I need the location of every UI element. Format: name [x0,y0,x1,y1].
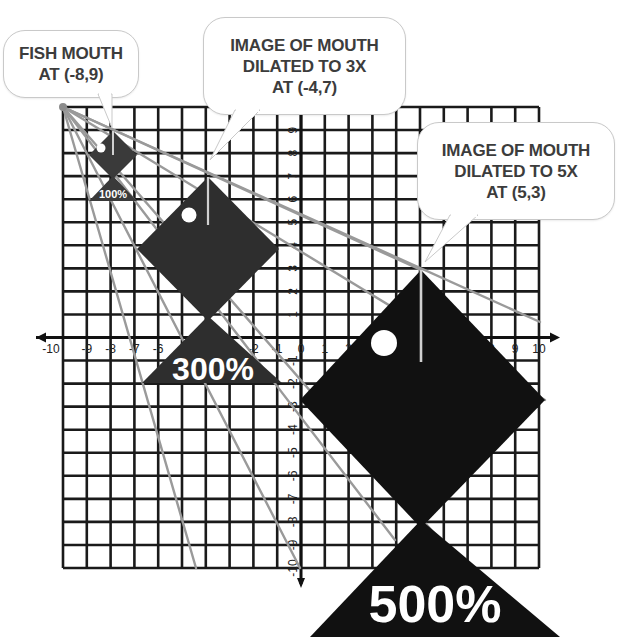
svg-text:0: 0 [298,342,305,356]
callout-mouth-3x: IMAGE OF MOUTH DILATED TO 3X AT (-4,7) [203,17,406,115]
svg-text:9: 9 [286,126,300,133]
svg-text:-6: -6 [286,470,300,481]
svg-text:1: 1 [286,311,300,318]
dilation-diagram: -10-9-8-7-6-5-4-3-2-10123456789101098765… [0,0,623,637]
callout-mouth-5x-text: IMAGE OF MOUTH DILATED TO 5X AT (5,3) [442,140,590,203]
svg-text:-10: -10 [42,342,60,356]
callout-fish-mouth-text: FISH MOUTH AT (-8,9) [19,43,123,85]
svg-text:7: 7 [286,172,300,179]
callout-line: AT (5,3) [442,182,590,203]
svg-text:8: 8 [286,149,300,156]
callout-line: IMAGE OF MOUTH [230,35,378,56]
fish-small: 100% [89,131,137,201]
svg-text:10: 10 [532,342,546,356]
svg-text:-4: -4 [286,424,300,435]
svg-text:5: 5 [286,219,300,226]
callout-line: DILATED TO 3X [230,56,378,77]
center-of-dilation-point [59,103,67,111]
fish-small-label: 100% [99,188,127,200]
svg-text:-7: -7 [286,493,300,504]
svg-text:-8: -8 [286,516,300,527]
fish-medium-label: 300% [172,351,254,387]
svg-text:-6: -6 [153,342,164,356]
callout-line: IMAGE OF MOUTH [442,140,590,161]
svg-text:6: 6 [286,196,300,203]
svg-text:9: 9 [512,342,519,356]
callout-mouth-3x-text: IMAGE OF MOUTH DILATED TO 3X AT (-4,7) [230,35,378,98]
svg-text:1: 1 [321,342,328,356]
svg-text:-2: -2 [286,378,300,389]
svg-text:2: 2 [286,288,300,295]
callout-line: FISH MOUTH [19,43,123,64]
callout-fish-mouth: FISH MOUTH AT (-8,9) [3,30,139,98]
callout-line: DILATED TO 5X [442,161,590,182]
svg-text:3: 3 [286,265,300,272]
svg-text:-5: -5 [286,447,300,458]
callout-line: AT (-4,7) [230,77,378,98]
callout-mouth-5x: IMAGE OF MOUTH DILATED TO 5X AT (5,3) [417,122,615,220]
svg-text:-8: -8 [105,342,116,356]
svg-text:-9: -9 [81,342,92,356]
callout-line: AT (-8,9) [19,64,123,85]
fish-large-label: 500% [369,575,502,633]
